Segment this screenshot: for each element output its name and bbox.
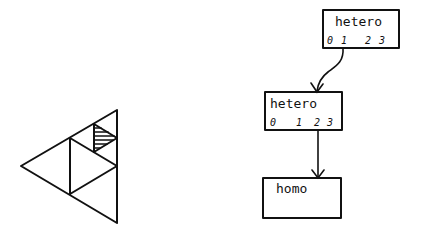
edge-node1-to-node2 bbox=[311, 48, 343, 92]
edge-node2-to-node3 bbox=[312, 130, 324, 178]
curved-arrow-line bbox=[317, 48, 343, 91]
triangle-figure bbox=[21, 110, 117, 223]
node-1-index-0: 0 bbox=[327, 35, 333, 46]
node-1-label: hetero bbox=[335, 14, 382, 29]
diagram-canvas: hetero 0 1 2 3 hetero 0 1 2 3 homo bbox=[0, 0, 421, 241]
node-2-index-1: 1 bbox=[296, 117, 302, 128]
tree-node-2: hetero 0 1 2 3 bbox=[265, 92, 342, 130]
node-3-label: homo bbox=[276, 181, 307, 196]
tree-node-1: hetero 0 1 2 3 bbox=[323, 10, 399, 48]
node-2-index-0: 0 bbox=[270, 117, 276, 128]
node-1-index-1: 1 bbox=[341, 35, 347, 46]
node-1-index-3: 3 bbox=[378, 35, 385, 46]
node-2-label: hetero bbox=[270, 96, 317, 111]
inner-lower-diagonal bbox=[70, 166, 117, 194]
node-1-index-2: 2 bbox=[365, 35, 371, 46]
tree-node-3: homo bbox=[263, 178, 341, 218]
node-2-index-3: 3 bbox=[326, 117, 333, 128]
node-2-index-2: 2 bbox=[314, 117, 320, 128]
